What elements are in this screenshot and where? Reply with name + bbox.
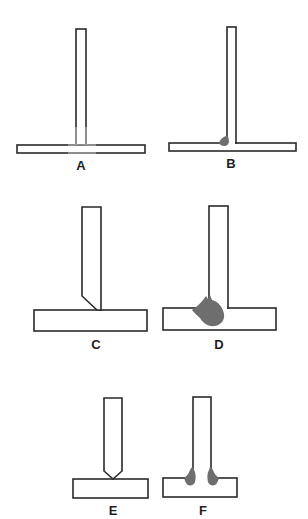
panel-e-double-beveled-vertical-plate — [104, 398, 122, 479]
panel-f: F — [163, 397, 237, 518]
panel-f-label: F — [199, 503, 207, 518]
panel-e-label: E — [109, 503, 118, 518]
panel-d-label: D — [214, 337, 223, 352]
panel-c-label: C — [91, 337, 101, 352]
panel-c-base-plate — [34, 310, 147, 331]
panel-c-beveled-vertical-plate — [82, 207, 101, 310]
panel-f-vertical-plate — [193, 397, 211, 478]
panel-b-fillet-weld — [219, 136, 229, 146]
panel-a: A — [17, 29, 145, 173]
panel-b-base-plate — [169, 143, 296, 151]
panel-b: B — [169, 27, 296, 171]
panel-c: C — [34, 207, 147, 352]
panel-d: D — [163, 206, 276, 352]
panel-a-vertical-plate — [76, 29, 86, 145]
panel-e-base-plate — [73, 479, 148, 498]
panel-b-label: B — [226, 156, 235, 171]
panel-a-label: A — [76, 158, 86, 173]
t-joint-weld-diagrams: A B C D E F — [0, 0, 308, 519]
panel-a-joint-fade — [68, 146, 96, 152]
panel-d-vertical-plate — [209, 206, 228, 308]
panel-b-vertical-plate — [227, 27, 236, 143]
panel-e: E — [73, 398, 148, 518]
panel-f-base-plate — [163, 478, 237, 497]
panel-b-junction-gap — [228, 142, 235, 144]
